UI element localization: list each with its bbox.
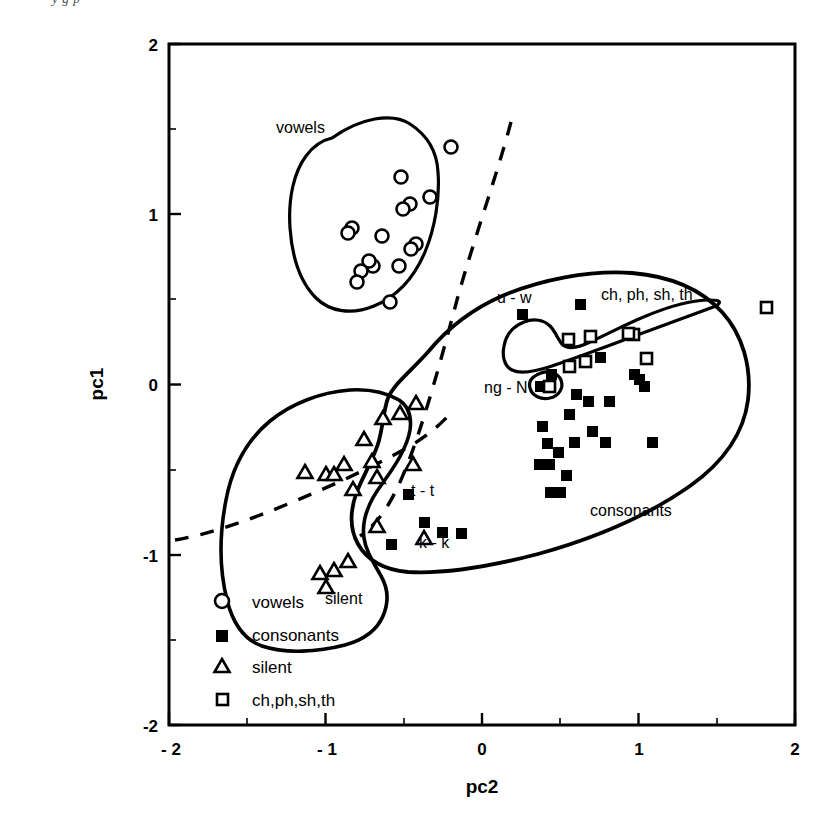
y-tick-label-4: -2 xyxy=(143,717,158,736)
data-point-silent xyxy=(370,470,385,483)
legend-marker-silent xyxy=(215,659,230,672)
data-point-consonant xyxy=(386,539,397,550)
scatter-plot-canvas: - 2 - 1 0 1 2 2 1 0 -1 -2 pc2 pc1 xyxy=(0,0,835,827)
data-point-chphshth xyxy=(585,331,596,342)
data-point-silent xyxy=(365,454,380,467)
annotation-ch-ph-sh-th: ch, ph, sh, th xyxy=(601,286,693,303)
annotation-consonants: consonants xyxy=(590,502,672,519)
x-tick-label-4: 2 xyxy=(790,740,799,759)
x-tick-label-3: 1 xyxy=(634,740,643,759)
data-point-silent xyxy=(327,563,342,576)
data-point-vowel xyxy=(351,276,364,289)
y-tick-label-0: 2 xyxy=(149,36,158,55)
data-point-consonant xyxy=(587,426,598,437)
data-point-consonant xyxy=(561,470,572,481)
legend-marker-vowels xyxy=(215,594,229,608)
data-point-chphshth xyxy=(544,381,555,392)
data-point-vowel xyxy=(395,171,408,184)
x-tick-label-0: - 2 xyxy=(161,740,181,759)
data-point-chphshth xyxy=(580,356,591,367)
data-point-consonant xyxy=(564,409,575,420)
data-point-vowel xyxy=(342,227,355,240)
legend-label-vowels[interactable]: vowels xyxy=(252,593,304,612)
data-point-vowel xyxy=(445,141,458,154)
legend-marker-chphshth xyxy=(217,694,228,705)
data-point-consonant xyxy=(544,459,555,470)
axes-frame xyxy=(169,44,795,725)
data-point-silent xyxy=(376,411,391,424)
data-point-vowel xyxy=(424,191,437,204)
data-point-consonant xyxy=(517,309,528,320)
data-point-vowel xyxy=(376,230,389,243)
data-point-silent xyxy=(298,465,313,478)
data-point-consonant xyxy=(456,528,467,539)
annotation-k-k: k - k xyxy=(419,534,450,551)
data-point-silent xyxy=(313,566,328,579)
x-tick-labels: - 2 - 1 0 1 2 xyxy=(161,740,800,759)
data-point-consonant xyxy=(546,369,557,380)
series-vowels-points xyxy=(342,141,458,309)
data-point-chphshth xyxy=(761,302,772,313)
data-point-vowel xyxy=(384,296,397,309)
data-point-consonant xyxy=(537,421,548,432)
data-point-chphshth xyxy=(623,328,634,339)
data-point-chphshth xyxy=(564,361,575,372)
legend-label-chphshth[interactable]: ch,ph,sh,th xyxy=(252,691,335,710)
data-point-consonant xyxy=(419,517,430,528)
x-tick-label-2: 0 xyxy=(477,740,486,759)
data-point-silent xyxy=(337,457,352,470)
data-point-consonant xyxy=(600,437,611,448)
data-point-silent xyxy=(406,457,421,470)
annotation-vowels: vowels xyxy=(276,119,325,136)
legend-label-consonants[interactable]: consonants xyxy=(252,626,339,645)
data-point-consonant xyxy=(575,299,586,310)
data-point-chphshth xyxy=(563,334,574,345)
plot-annotations: vowels u - w ch, ph, sh, th ng - N t - t… xyxy=(276,119,693,607)
x-axis-ticks xyxy=(169,713,795,725)
data-point-consonant xyxy=(595,352,606,363)
annotation-t-t: t - t xyxy=(411,482,435,499)
data-point-consonant xyxy=(553,447,564,458)
data-point-consonant xyxy=(542,438,553,449)
data-point-consonant xyxy=(604,396,615,407)
dashed-boundary-lines xyxy=(175,122,511,540)
data-point-silent xyxy=(341,554,356,567)
data-point-chphshth xyxy=(641,353,652,364)
legend-marker-consonants xyxy=(216,630,228,642)
y-tick-label-2: 0 xyxy=(149,376,158,395)
data-point-consonant xyxy=(569,437,580,448)
annotation-silent: silent xyxy=(325,590,363,607)
annotation-ng-N: ng - N xyxy=(484,379,528,396)
figure-root: y g p xyxy=(0,0,835,827)
data-point-vowel xyxy=(393,260,406,273)
dashed-line-vertical xyxy=(360,122,511,536)
annotation-u-w: u - w xyxy=(497,289,532,306)
ch-ph-sh-th-cluster-outline xyxy=(503,300,719,372)
y-tick-labels: 2 1 0 -1 -2 xyxy=(143,36,158,736)
data-point-vowel xyxy=(397,203,410,216)
data-point-consonant xyxy=(639,381,650,392)
data-point-consonant xyxy=(571,389,582,400)
data-point-consonant xyxy=(583,396,594,407)
y-axis-title: pc1 xyxy=(86,367,107,400)
data-point-consonant xyxy=(545,487,556,498)
y-tick-label-3: -1 xyxy=(143,547,158,566)
y-axis-ticks xyxy=(169,44,181,725)
data-point-vowel xyxy=(405,243,418,256)
y-tick-label-1: 1 xyxy=(149,206,158,225)
data-point-silent xyxy=(409,396,424,409)
data-point-silent xyxy=(357,432,372,445)
x-axis-title: pc2 xyxy=(466,776,499,797)
data-point-consonant xyxy=(555,487,566,498)
data-point-consonant xyxy=(647,437,658,448)
legend-label-silent[interactable]: silent xyxy=(252,658,292,677)
data-point-silent xyxy=(370,519,385,532)
x-tick-label-1: - 1 xyxy=(317,740,337,759)
